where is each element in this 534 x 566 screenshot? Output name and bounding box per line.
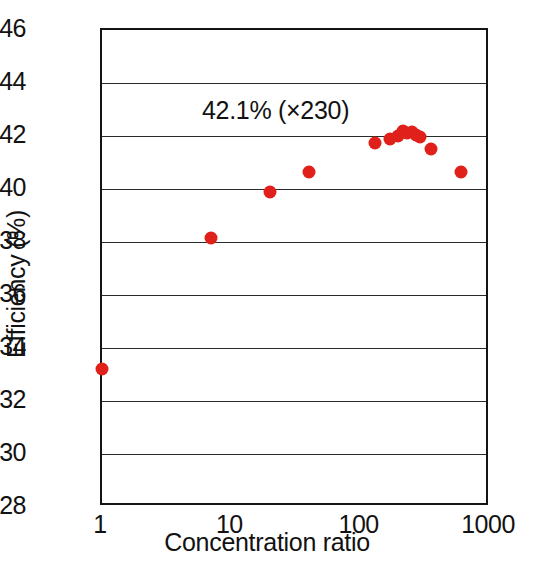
y-tick-label-40: 40 (0, 175, 26, 200)
gridline-y-40 (102, 189, 486, 190)
gridline-y-30 (102, 454, 486, 455)
gridline-y-36 (102, 295, 486, 296)
y-tick-label-36: 36 (0, 281, 26, 306)
data-point (264, 185, 277, 198)
y-tick-label-46: 46 (0, 16, 26, 41)
data-point (303, 165, 316, 178)
data-point (414, 131, 427, 144)
efficiency-vs-concentration-chart: Efficiency (%) 28303234363840424446 1101… (0, 0, 534, 566)
data-point (96, 363, 109, 376)
gridline-y-42 (102, 136, 486, 137)
y-tick-label-30: 30 (0, 440, 26, 465)
y-tick-label-42: 42 (0, 122, 26, 147)
data-point (425, 143, 438, 156)
y-tick-label-38: 38 (0, 228, 26, 253)
plot-area: 42.1% (×230) (100, 28, 488, 505)
y-tick-label-44: 44 (0, 69, 26, 94)
data-point (455, 165, 468, 178)
gridline-y-34 (102, 348, 486, 349)
gridline-y-32 (102, 401, 486, 402)
data-point (205, 232, 218, 245)
y-tick-label-28: 28 (0, 493, 26, 518)
peak-efficiency-annotation: 42.1% (×230) (202, 95, 349, 124)
x-axis-title: Concentration ratio (0, 528, 534, 557)
y-tick-label-32: 32 (0, 387, 26, 412)
y-tick-label-34: 34 (0, 334, 26, 359)
gridline-y-44 (102, 83, 486, 84)
gridline-y-38 (102, 242, 486, 243)
data-point (369, 136, 382, 149)
